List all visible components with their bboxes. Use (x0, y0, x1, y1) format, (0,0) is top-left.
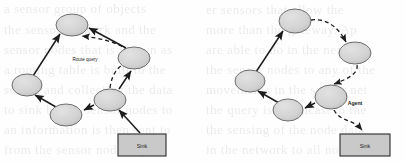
route-query-label: Route query (72, 57, 98, 62)
right-dashed-agent-path (311, 20, 362, 130)
sensor-node-L1[interactable] (56, 14, 88, 36)
sink-box-label: Sink (137, 143, 148, 149)
agent-diagram: Agent Sink (235, 9, 390, 156)
edge-R3-to-R4 (305, 103, 315, 108)
sensor-node-L5[interactable] (12, 74, 42, 96)
edge-R5-to-R1 (256, 31, 283, 72)
right-solid-edges (256, 31, 315, 108)
network-diagrams-svg: Route query Sink (0, 0, 405, 164)
agent-label: Agent (348, 100, 363, 106)
dashed-L2-to-L1 (82, 36, 128, 50)
edge-sink-to-L3 (119, 110, 140, 133)
figure-container: er sensors that allow thea sensor group … (0, 0, 405, 164)
left-solid-edges (33, 28, 140, 133)
sensor-node-L3[interactable] (94, 89, 126, 111)
sensor-node-R1[interactable] (279, 9, 311, 33)
sensor-node-R4[interactable] (273, 99, 303, 121)
left-sink-box[interactable]: Sink (118, 134, 166, 156)
sink-box-label: Sink (360, 143, 371, 149)
sensor-node-R3[interactable] (315, 85, 347, 109)
dashed-R1-to-R2 (311, 20, 346, 42)
edge-R4-to-R5 (258, 91, 279, 103)
dashed-R2-to-R3 (334, 65, 357, 84)
edge-L4-to-L5 (35, 95, 56, 107)
left-nodes (12, 14, 150, 126)
edge-L5-to-L1 (33, 34, 60, 76)
edge-L3-to-L2 (119, 71, 131, 89)
sensor-node-L2[interactable] (118, 47, 150, 69)
sensor-node-R2[interactable] (339, 42, 371, 64)
route-query-diagram: Route query Sink (12, 14, 166, 156)
right-sink-box[interactable]: Sink (340, 134, 390, 156)
sensor-node-R5[interactable] (235, 70, 265, 92)
dashed-R3-to-sink (334, 110, 362, 130)
sensor-node-L4[interactable] (50, 104, 82, 126)
edge-L3-to-L4 (84, 105, 94, 110)
